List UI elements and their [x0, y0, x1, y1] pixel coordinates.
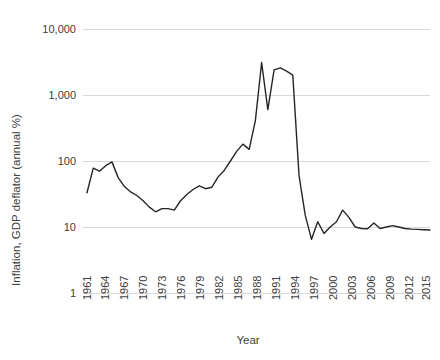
ytick-label-1000: 1,000 — [48, 89, 76, 101]
xtick-label-2003: 2003 — [346, 276, 358, 300]
xtick-label-1973: 1973 — [156, 276, 168, 300]
xtick-label-1988: 1988 — [251, 276, 263, 300]
xtick-label-2000: 2000 — [327, 276, 339, 300]
xtick-label-1997: 1997 — [308, 276, 320, 300]
xtick-label-1982: 1982 — [213, 276, 225, 300]
chart-container: 10,000 1,000 100 10 1 Inflation, GDP def… — [0, 0, 440, 360]
ytick-label-10: 10 — [64, 221, 76, 233]
xtick-label-2015: 2015 — [420, 276, 432, 300]
inflation-gdp-deflator-line-chart: 10,000 1,000 100 10 1 Inflation, GDP def… — [0, 0, 440, 360]
xtick-label-1994: 1994 — [289, 276, 301, 300]
y-axis-title: Inflation, GDP deflator (annual %) — [10, 114, 22, 286]
x-axis-tick-labels: 1961 1964 1967 1970 1973 1976 1979 1982 … — [81, 276, 432, 300]
xtick-label-1976: 1976 — [175, 276, 187, 300]
xtick-label-1970: 1970 — [137, 276, 149, 300]
ytick-label-100: 100 — [58, 155, 76, 167]
ytick-label-10000: 10,000 — [42, 23, 76, 35]
xtick-label-1979: 1979 — [194, 276, 206, 300]
xtick-label-1985: 1985 — [232, 276, 244, 300]
xtick-label-2006: 2006 — [365, 276, 377, 300]
y-axis-tick-labels: 10,000 1,000 100 10 1 — [42, 23, 76, 299]
ytick-label-1: 1 — [70, 287, 76, 299]
data-series-line-inflation — [87, 63, 430, 240]
x-axis-title: Year — [236, 334, 259, 346]
gridlines — [83, 29, 430, 293]
xtick-label-1967: 1967 — [118, 276, 130, 300]
xtick-label-1964: 1964 — [99, 276, 111, 300]
xtick-label-2009: 2009 — [384, 276, 396, 300]
xtick-label-2012: 2012 — [403, 276, 415, 300]
xtick-label-1961: 1961 — [81, 276, 93, 300]
xtick-label-1991: 1991 — [270, 276, 282, 300]
